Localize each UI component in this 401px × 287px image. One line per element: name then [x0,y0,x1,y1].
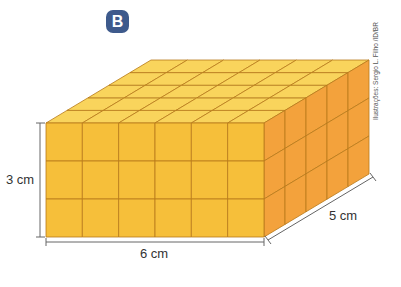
figure-badge: B [106,10,129,33]
front-cube-face [46,161,82,199]
front-cube-face [191,161,227,199]
figure-canvas: B 3 cm 6 cm 5 cm Ilustrações: Sergio L. … [0,0,401,287]
front-cube-face [155,123,191,161]
front-cube-face [228,161,264,199]
front-cube-face [155,199,191,237]
depth-label: 5 cm [329,208,357,223]
front-cube-face [82,199,118,237]
front-cube-face [191,123,227,161]
front-cube-face [155,161,191,199]
height-dimension-line [36,123,45,237]
front-cube-face [46,123,82,161]
front-cube-face [228,199,264,237]
height-label: 3 cm [6,172,34,187]
front-cube-face [82,123,118,161]
front-cube-face [46,199,82,237]
front-cube-face [119,199,155,237]
illustration-credit: Ilustrações: Sergio L. Filho /ID/BR [372,22,379,120]
width-label: 6 cm [140,246,168,261]
width-dimension-line [46,238,264,246]
front-cube-face [119,123,155,161]
front-cube-face [119,161,155,199]
front-cube-face [82,161,118,199]
front-cube-face [228,123,264,161]
rectangular-prism-diagram [0,0,401,287]
front-face [46,123,264,237]
front-cube-face [191,199,227,237]
